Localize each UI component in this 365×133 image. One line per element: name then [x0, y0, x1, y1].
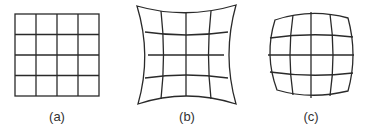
- distortion-figure: (a) (b) (c): [0, 0, 365, 133]
- panel-c-label: (c): [303, 109, 318, 124]
- panel-b-grid: [137, 5, 236, 104]
- panel-b-label: (b): [179, 109, 195, 124]
- panel-a-grid: [15, 14, 99, 96]
- panel-c-grid: [268, 12, 354, 98]
- panel-a-label: (a): [49, 109, 65, 124]
